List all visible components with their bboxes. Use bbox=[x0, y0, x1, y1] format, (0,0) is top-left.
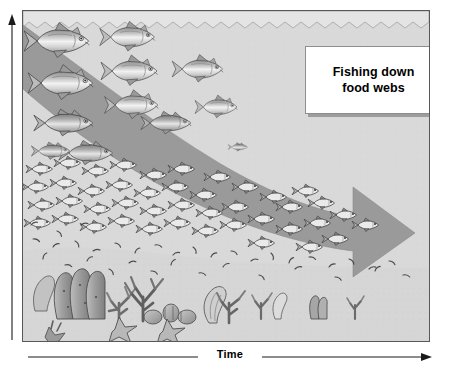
callout-label: Fishing down food webs bbox=[305, 46, 430, 114]
time-axis-label: Time bbox=[26, 346, 434, 362]
callout-line-1: Fishing down bbox=[333, 65, 415, 79]
callout-text: Fishing down food webs bbox=[333, 64, 415, 96]
figure-fishing-down-food-webs: Fishing down food webs Time bbox=[0, 0, 451, 370]
trophic-level-axis bbox=[4, 12, 20, 342]
callout-line-2: food webs bbox=[342, 81, 405, 95]
time-axis: Time bbox=[26, 346, 434, 368]
callout-box: Fishing down food webs bbox=[305, 46, 430, 114]
illustration-panel: Fishing down food webs bbox=[22, 10, 430, 342]
